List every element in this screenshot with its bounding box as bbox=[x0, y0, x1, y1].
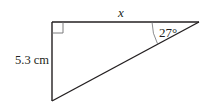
right-angle-marker bbox=[52, 22, 63, 33]
angle-arc bbox=[152, 22, 158, 44]
top-side-label: x bbox=[117, 5, 124, 20]
angle-label: 27° bbox=[159, 25, 177, 40]
right-triangle-diagram: x 27° 5.3 cm bbox=[0, 0, 212, 110]
left-side-label: 5.3 cm bbox=[15, 53, 49, 67]
